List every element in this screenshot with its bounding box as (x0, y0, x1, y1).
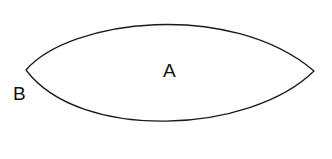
region-label-b: B (13, 84, 26, 103)
diagram-canvas: A B (0, 0, 332, 159)
region-label-a: A (163, 61, 176, 80)
